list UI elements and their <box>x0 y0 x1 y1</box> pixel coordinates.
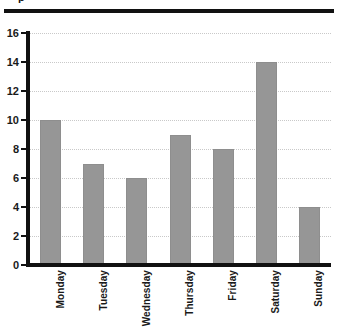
y-axis-tick-label: 6 <box>13 172 19 184</box>
bar[interactable] <box>126 178 147 265</box>
x-axis-label: Friday <box>227 270 238 301</box>
x-axis-label: Monday <box>55 270 66 308</box>
x-axis-label: Wednesday <box>141 270 152 326</box>
y-axis-tick-label: 2 <box>13 230 19 242</box>
x-axis-category-labels: MondayTuesdayWednesdayThursdayFridaySatu… <box>29 270 331 333</box>
x-axis-line <box>26 263 331 267</box>
bar[interactable] <box>256 62 277 265</box>
x-axis-label: Tuesday <box>98 270 109 311</box>
x-axis-label: Sunday <box>313 270 324 307</box>
x-axis-label: Saturday <box>270 270 281 314</box>
clipped-title-text: p <box>18 0 25 3</box>
y-axis-tick-label: 16 <box>7 27 19 39</box>
y-axis-tick-label: 0 <box>13 259 19 271</box>
gridline <box>29 120 331 121</box>
y-axis-tick-labels: 0246810121416 <box>0 0 19 333</box>
y-axis-tick-label: 14 <box>7 56 19 68</box>
y-axis-line <box>26 31 30 267</box>
bar[interactable] <box>83 164 104 266</box>
y-axis-tick-label: 10 <box>7 114 19 126</box>
y-axis-tick-label: 4 <box>13 201 19 213</box>
bar[interactable] <box>170 135 191 266</box>
y-axis-tick-label: 12 <box>7 85 19 97</box>
bar[interactable] <box>299 207 320 265</box>
gridline <box>29 33 331 34</box>
bar[interactable] <box>40 120 61 265</box>
y-axis-tick-label: 8 <box>13 143 19 155</box>
plot-area <box>29 33 331 265</box>
x-axis-label: Thursday <box>184 270 195 316</box>
gridline <box>29 91 331 92</box>
bar[interactable] <box>213 149 234 265</box>
bar-chart-figure: p 0246810121416 MondayTuesdayWednesdayTh… <box>0 0 340 333</box>
gridline <box>29 62 331 63</box>
header-divider-rule <box>4 9 334 13</box>
